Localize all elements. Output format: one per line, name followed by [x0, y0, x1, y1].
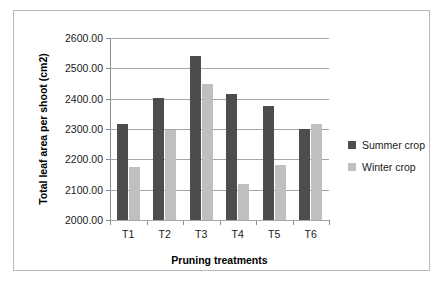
x-axis-tick-label-t5: T5: [256, 228, 292, 240]
y-axis-tick: [106, 129, 110, 130]
x-axis-tick-label-t2: T2: [147, 228, 183, 240]
y-axis-tick-label: 2300.00: [47, 124, 103, 135]
bar-t3-winter: [202, 84, 213, 221]
y-axis-tick: [106, 159, 110, 160]
bar-t5-summer: [263, 106, 274, 220]
gridline: [110, 38, 329, 39]
gridline: [110, 129, 329, 130]
bar-t4-winter: [238, 184, 249, 220]
y-axis-tick-label: 2200.00: [47, 154, 103, 165]
x-axis-tick-label-t4: T4: [220, 228, 256, 240]
legend-item-winter[interactable]: Winter crop: [348, 158, 425, 176]
gridline: [110, 68, 329, 69]
bar-t4-summer: [226, 94, 237, 220]
x-axis-tick-label-t6: T6: [293, 228, 329, 240]
y-axis-tick: [106, 190, 110, 191]
legend-item-summer[interactable]: Summer crop: [348, 136, 425, 154]
bar-t1-summer: [117, 124, 128, 220]
bar-t5-winter: [275, 165, 286, 220]
chart-legend: Summer cropWinter crop: [348, 136, 425, 180]
x-axis-tick: [183, 221, 184, 225]
x-axis-tick: [147, 221, 148, 225]
bar-t1-winter: [129, 167, 140, 220]
x-axis-tick-label-t3: T3: [183, 228, 219, 240]
chart-frame: Total leaf area per shoot (cm2) 2600.002…: [13, 10, 430, 271]
y-axis-tick: [106, 68, 110, 69]
bar-t2-winter: [165, 130, 176, 220]
x-axis-tick: [220, 221, 221, 225]
x-axis-title: Pruning treatments: [110, 254, 329, 266]
bar-t3-summer: [190, 56, 201, 220]
x-axis-tick-label-t1: T1: [110, 228, 146, 240]
legend-swatch-icon: [348, 163, 356, 171]
x-axis-tick: [329, 221, 330, 225]
x-axis-tick: [293, 221, 294, 225]
y-axis-tick: [106, 99, 110, 100]
y-axis-tick-label: 2000.00: [47, 215, 103, 226]
x-axis-tick: [256, 221, 257, 225]
gridline: [110, 99, 329, 100]
y-axis-tick-label: 2100.00: [47, 184, 103, 195]
chart-figure: Total leaf area per shoot (cm2) 2600.002…: [0, 0, 444, 285]
y-axis-tick-label: 2400.00: [47, 93, 103, 104]
bar-t2-summer: [153, 98, 164, 220]
legend-label: Winter crop: [362, 161, 416, 173]
gridline: [110, 159, 329, 160]
plot-area: 2600.002500.002400.002300.002200.002100.…: [110, 38, 329, 220]
gridline: [110, 190, 329, 191]
y-axis-tick: [106, 38, 110, 39]
bar-t6-summer: [299, 129, 310, 220]
bar-t6-winter: [311, 124, 322, 220]
legend-label: Summer crop: [362, 139, 425, 151]
x-axis-tick: [110, 221, 111, 225]
y-axis-tick-label: 2600.00: [47, 33, 103, 44]
legend-swatch-icon: [348, 141, 356, 149]
y-axis-tick-label: 2500.00: [47, 63, 103, 74]
